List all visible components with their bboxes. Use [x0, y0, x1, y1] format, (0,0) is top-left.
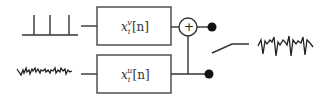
plus-icon: +	[184, 20, 194, 34]
impulse-train-icon	[22, 15, 78, 35]
source-filter-diagram: xiv[n] xiu[n] +	[0, 0, 329, 97]
switch-arm	[212, 44, 249, 53]
output-waveform-icon	[258, 36, 313, 56]
voiced-block-label: xiv[n]	[121, 18, 149, 36]
switch-terminal-unvoiced	[205, 70, 214, 79]
unvoiced-block-label: xiu[n]	[121, 66, 150, 84]
noise-waveform-icon	[17, 68, 72, 75]
switch-terminal-sum	[208, 23, 217, 32]
